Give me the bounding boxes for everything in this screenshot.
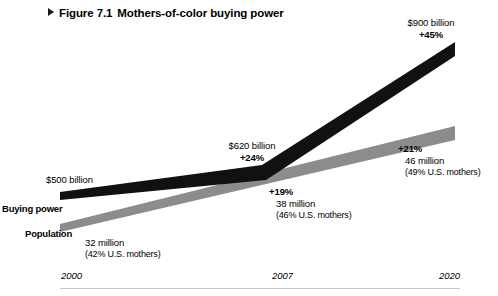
bp-2020-change: +45% [384, 29, 478, 41]
pop-2007-change: +19% [269, 186, 351, 198]
bp-2000-value: $500 billion [46, 174, 93, 186]
annotation-buying-power-2000: $500 billion [46, 174, 93, 186]
annotation-population-2020: +21% 46 million (49% U.S. mothers) [398, 143, 480, 178]
pop-2000-share: (42% U.S. mothers) [85, 249, 160, 260]
annotation-buying-power-2007: $620 billion +24% [211, 140, 293, 164]
bp-2007-value: $620 billion [211, 140, 293, 152]
axis-year-2000: 2000 [61, 270, 82, 281]
axis-year-2007: 2007 [272, 270, 293, 281]
bp-2007-change: +24% [211, 152, 293, 164]
pop-2020-change: +21% [398, 143, 480, 155]
figure-container: Figure 7.1 Mothers-of-color buying power… [0, 0, 498, 296]
annotation-population-2007: +19% 38 million (46% U.S. mothers) [269, 186, 351, 221]
pop-2000-count: 32 million [85, 237, 160, 249]
pop-2007-count: 38 million [269, 198, 351, 210]
annotation-buying-power-2020: $900 billion +45% [384, 17, 478, 41]
bp-2020-value: $900 billion [384, 17, 478, 29]
legend-label-buying-power: Buying power [2, 203, 62, 214]
annotation-population-2000: 32 million (42% U.S. mothers) [85, 237, 160, 260]
pop-2007-share: (46% U.S. mothers) [269, 210, 351, 221]
legend-label-population: Population [25, 228, 72, 239]
pop-2020-share: (49% U.S. mothers) [398, 167, 480, 178]
axis-year-2020: 2020 [439, 270, 460, 281]
buying-power-band [60, 42, 455, 200]
pop-2020-count: 46 million [398, 155, 480, 167]
